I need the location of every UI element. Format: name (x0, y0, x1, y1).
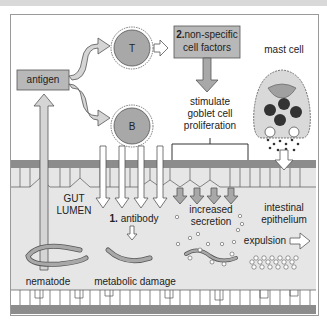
increased-line1: increased (186, 204, 236, 215)
t-cell-label: T (122, 43, 142, 54)
bracket (172, 138, 248, 160)
increased-line2: secretion (186, 216, 236, 227)
intestinal-line1: intestinal (254, 202, 314, 213)
arrow-to-t-cell (69, 38, 110, 80)
factors-text: non-specific (184, 29, 237, 40)
mast-cell-label: mast cell (254, 44, 314, 55)
gut-lumen-line1: GUT (56, 193, 92, 204)
antigen-label: antigen (17, 74, 69, 85)
factors-label-line2: cell factors (174, 42, 240, 53)
intestinal-line2: epithelium (254, 214, 314, 225)
antibody-number: 1. (110, 213, 118, 224)
t-to-factors-arrow (154, 40, 168, 56)
antibody-label: 1. antibody (104, 213, 164, 224)
nematode-label: nematode (18, 276, 78, 287)
stimulate-line3: proliferation (170, 120, 250, 131)
arrow-to-b-cell (69, 84, 110, 126)
expulsion-label: expulsion (240, 235, 290, 246)
stimulate-line2: goblet cell (170, 108, 250, 119)
factors-label-line1: 2.non-specific (174, 29, 240, 40)
stimulate-line1: stimulate (170, 96, 250, 107)
released-granules (267, 139, 300, 152)
metabolic-damage-label: metabolic damage (90, 276, 180, 287)
top-membrane (11, 160, 316, 168)
factors-down-arrow (196, 58, 218, 92)
antibody-text: antibody (121, 213, 159, 224)
bottom-membrane (11, 305, 316, 314)
b-cell-label: B (122, 121, 142, 132)
gut-lumen-line2: LUMEN (56, 205, 92, 216)
